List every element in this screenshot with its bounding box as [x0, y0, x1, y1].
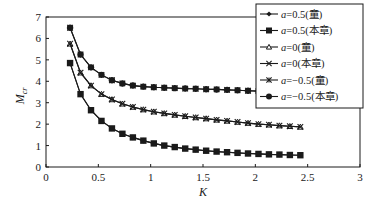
square-marker-icon	[119, 131, 125, 137]
square-marker-icon	[266, 28, 272, 34]
circle-marker-icon	[213, 86, 219, 92]
circle-marker-icon	[245, 88, 251, 94]
y-tick-label: 1	[36, 140, 42, 152]
square-marker-icon	[213, 148, 219, 154]
circle-marker-icon	[109, 77, 115, 83]
y-tick-label: 2	[36, 118, 42, 130]
y-tick-label: 6	[36, 32, 42, 44]
circle-marker-icon	[234, 87, 240, 93]
circle-marker-icon	[88, 64, 94, 70]
legend: a=0.5(童)a=0.5(本章)a=0(童)a=0(本章)a=−0.5(童)a…	[256, 4, 363, 108]
x-tick-label: 0	[43, 171, 49, 183]
y-tick-label: 3	[36, 97, 42, 109]
circle-marker-icon	[172, 85, 178, 91]
x-axis-label: K	[198, 185, 208, 199]
square-marker-icon	[67, 60, 73, 66]
square-marker-icon	[234, 150, 240, 156]
circle-marker-icon	[192, 86, 198, 92]
y-tick-label: 7	[36, 11, 42, 23]
square-marker-icon	[77, 91, 83, 97]
svg-text:Mcr: Mcr	[13, 87, 29, 106]
circle-marker-icon	[161, 85, 167, 91]
circle-marker-icon	[224, 87, 230, 93]
circle-marker-icon	[140, 83, 146, 89]
x-tick-label: 1	[148, 171, 154, 183]
x-tick-label: 0.5	[91, 171, 105, 183]
legend-label: a=−0.5(本章)	[281, 90, 339, 103]
circle-marker-icon	[67, 25, 73, 31]
x-tick-label: 2.5	[301, 171, 315, 183]
circle-marker-icon	[130, 82, 136, 88]
square-marker-icon	[88, 107, 94, 113]
y-tick-label: 0	[36, 161, 42, 173]
y-axis-label-sub: cr	[20, 87, 29, 95]
x-tick-label: 1.5	[196, 171, 210, 183]
legend-label: a=0(童)	[281, 41, 315, 54]
circle-marker-icon	[203, 86, 209, 92]
circle-marker-icon	[77, 51, 83, 57]
circle-marker-icon	[119, 80, 125, 86]
square-marker-icon	[140, 137, 146, 143]
square-marker-icon	[109, 125, 115, 131]
square-marker-icon	[297, 152, 303, 158]
circle-marker-icon	[151, 84, 157, 90]
circle-marker-icon	[98, 72, 104, 78]
square-marker-icon	[245, 150, 251, 156]
square-marker-icon	[255, 151, 261, 157]
square-marker-icon	[182, 145, 188, 151]
square-marker-icon	[192, 146, 198, 152]
square-marker-icon	[172, 144, 178, 150]
y-axis-label: Mcr	[13, 87, 29, 106]
x-tick-label: 3	[357, 171, 363, 183]
legend-label: a=0.5(本章)	[281, 24, 333, 37]
square-marker-icon	[98, 118, 104, 124]
circle-marker-icon	[266, 94, 272, 100]
x-tick-label: 2	[253, 171, 259, 183]
y-tick-label: 4	[36, 75, 42, 87]
square-marker-icon	[224, 149, 230, 155]
square-marker-icon	[276, 151, 282, 157]
legend-label: a=0(本章)	[281, 57, 325, 70]
square-marker-icon	[266, 151, 272, 157]
square-marker-icon	[161, 142, 167, 148]
square-marker-icon	[203, 148, 209, 154]
circle-marker-icon	[182, 85, 188, 91]
square-marker-icon	[130, 134, 136, 140]
y-tick-label: 5	[36, 54, 42, 66]
square-marker-icon	[287, 152, 293, 158]
square-marker-icon	[151, 140, 157, 146]
legend-label: a=−0.5(童)	[281, 74, 329, 87]
legend-label: a=0.5(童)	[281, 8, 323, 21]
line-chart: 00.511.522.5301234567 K Mcr a=0.5(童)a=0.…	[0, 0, 371, 209]
